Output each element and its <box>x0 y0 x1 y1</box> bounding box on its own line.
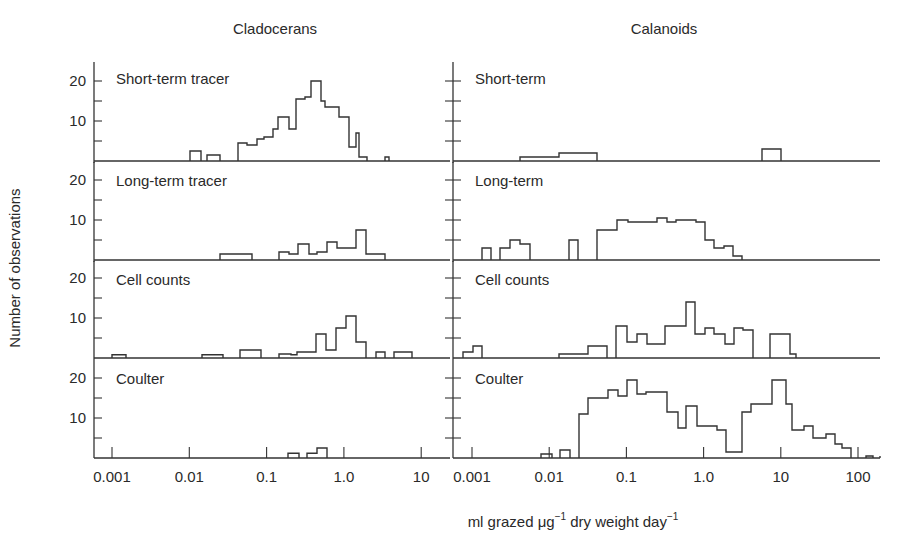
panel-label: Cell counts <box>116 271 190 288</box>
panel-calanoids-long-term: Long-term <box>445 162 880 262</box>
x-tick-label: 0.1 <box>256 468 277 485</box>
panel-label: Coulter <box>116 370 164 387</box>
column-title-cladocerans: Cladocerans <box>233 20 317 37</box>
histogram-steps <box>482 218 742 260</box>
x-tick-label: 0.001 <box>453 468 491 485</box>
x-tick-label: 10 <box>772 468 789 485</box>
histogram-steps <box>220 230 385 260</box>
histogram-steps <box>288 448 327 458</box>
y-tick-label: 10 <box>69 112 86 129</box>
panel-cladocerans-long-term-tracer: 1020Long-term tracer <box>69 162 450 262</box>
y-tick-label: 10 <box>69 211 86 228</box>
panel-calanoids-short-term: Short-term <box>445 62 880 163</box>
x-tick-label: 100 <box>845 468 870 485</box>
panel-label: Long-term <box>475 172 543 189</box>
x-tick-label: 0.01 <box>535 468 564 485</box>
histogram-steps <box>541 380 880 458</box>
panels-group: 1020Short-term tracer1020Long-term trace… <box>69 62 880 485</box>
column-title-calanoids: Calanoids <box>631 20 698 37</box>
histogram-steps <box>463 302 796 358</box>
x-tick-label: 1.0 <box>333 468 354 485</box>
y-axis-label: Number of observations <box>6 188 23 347</box>
x-axis-label: ml grazed μg−1 dry weight day−1 <box>468 511 679 530</box>
y-tick-label: 20 <box>69 72 86 89</box>
panel-cladocerans-cell-counts: 1020Cell counts <box>69 261 450 360</box>
y-tick-label: 20 <box>69 171 86 188</box>
x-tick-label: 0.001 <box>93 468 131 485</box>
histogram-figure: Cladocerans Calanoids Number of observat… <box>0 0 897 544</box>
panel-calanoids-cell-counts: Cell counts <box>445 261 880 360</box>
x-tick-label: 10 <box>413 468 430 485</box>
panel-calanoids-coulter: Coulter0.0010.010.11.010100 <box>445 360 880 485</box>
histogram-steps <box>112 316 421 358</box>
y-tick-label: 10 <box>69 409 86 426</box>
y-tick-label: 10 <box>69 309 86 326</box>
x-tick-label: 0.1 <box>616 468 637 485</box>
panel-label: Cell counts <box>475 271 549 288</box>
panel-label: Long-term tracer <box>116 172 227 189</box>
panel-label: Short-term tracer <box>116 70 229 87</box>
panel-cladocerans-coulter: 1020Coulter0.0010.010.11.010 <box>69 360 450 485</box>
y-tick-label: 20 <box>69 269 86 286</box>
panel-label: Short-term <box>475 70 546 87</box>
panel-label: Coulter <box>475 370 523 387</box>
x-tick-label: 1.0 <box>693 468 714 485</box>
histogram-steps <box>520 149 781 161</box>
y-tick-label: 20 <box>69 369 86 386</box>
panel-cladocerans-short-term-tracer: 1020Short-term tracer <box>69 62 450 163</box>
x-tick-label: 0.01 <box>175 468 204 485</box>
histogram-steps <box>190 81 419 161</box>
